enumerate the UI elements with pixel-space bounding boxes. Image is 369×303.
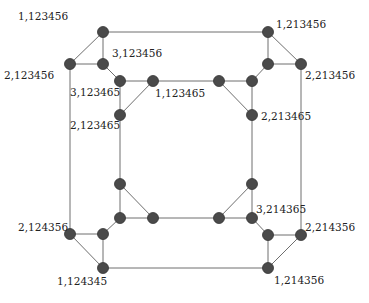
graph-node	[247, 179, 258, 190]
node-label: 1,123465	[155, 87, 205, 99]
graph-node	[247, 76, 258, 87]
graph-node	[296, 59, 307, 70]
graph-node	[115, 179, 126, 190]
graph-node	[263, 263, 274, 274]
graph-edge	[120, 81, 153, 115]
node-label: 3,123456	[112, 47, 162, 59]
graph-node	[98, 229, 109, 240]
node-label: 1,124345	[57, 275, 107, 287]
graph-node	[115, 76, 126, 87]
graph-node	[148, 76, 159, 87]
graph-node	[98, 59, 109, 70]
node-label: 2,123456	[4, 69, 54, 81]
graph-edge	[70, 234, 103, 268]
graph-edge	[219, 81, 252, 115]
node-label: 1,213456	[276, 18, 326, 30]
graph-edge	[219, 184, 252, 218]
graph-edge	[268, 32, 301, 64]
graph-node	[115, 213, 126, 224]
graph-node	[263, 59, 274, 70]
graph-edge	[120, 184, 153, 218]
graph-edge	[70, 32, 103, 64]
graph-node	[98, 263, 109, 274]
graph-edge	[268, 235, 301, 268]
graph-node	[263, 230, 274, 241]
node-label: 3,214365	[256, 203, 306, 215]
graph-canvas: 1,1234562,1234563,1234563,1234651,123465…	[0, 0, 369, 303]
graph-node	[65, 59, 76, 70]
node-label: 2,123465	[70, 119, 120, 131]
node-label: 2,214356	[305, 221, 355, 233]
node-label: 3,123465	[70, 86, 120, 98]
graph-node	[98, 27, 109, 38]
graph-node	[247, 110, 258, 121]
node-label: 2,213456	[305, 69, 355, 81]
graph-node	[214, 76, 225, 87]
graph-node	[148, 213, 159, 224]
node-label: 2,213465	[261, 110, 311, 122]
graph-node	[214, 213, 225, 224]
node-label: 1,123456	[18, 10, 68, 22]
node-label: 1,214356	[274, 274, 324, 286]
graph-diagram: 1,1234562,1234563,1234563,1234651,123465…	[0, 0, 369, 303]
graph-node	[263, 27, 274, 38]
labels-layer: 1,1234562,1234563,1234563,1234651,123465…	[4, 10, 355, 287]
nodes-layer	[65, 27, 307, 274]
node-label: 2,124356	[18, 221, 68, 233]
